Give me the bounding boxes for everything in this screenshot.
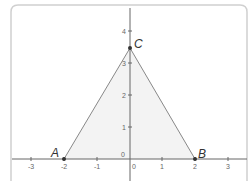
point-c-label: C (134, 37, 143, 51)
x-tick-label: 1 (160, 163, 164, 170)
point-b-label: B (198, 147, 206, 161)
x-tick-label: -2 (61, 163, 67, 170)
x-tick-label: 3 (226, 163, 230, 170)
x-tick-label: -3 (28, 163, 34, 170)
y-tick-label: 0 (121, 151, 125, 158)
y-tick-label: 2 (122, 92, 126, 99)
y-tick-label: 1 (122, 124, 126, 131)
point-a-marker (62, 157, 66, 161)
diagram-canvas: -3 -2 -1 0 1 2 3 0 1 2 3 4 A B C (0, 0, 252, 181)
point-c-marker (128, 46, 132, 50)
x-tick-label: 2 (193, 163, 197, 170)
point-a-label: A (50, 146, 59, 160)
point-b-marker (193, 157, 197, 161)
x-tick-label: 0 (132, 163, 136, 170)
y-tick-label: 3 (122, 60, 126, 67)
y-tick-label: 4 (122, 28, 126, 35)
x-tick-label: -1 (94, 163, 100, 170)
